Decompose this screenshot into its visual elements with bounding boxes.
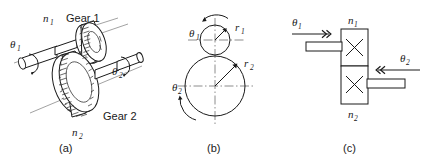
panel-c-n1-subscript: 1 <box>354 20 358 29</box>
panel-a-n2-label: n <box>72 126 78 138</box>
panel-b-r2-label: r <box>244 57 249 69</box>
panel-c-output-shaft <box>367 79 405 88</box>
panel-c-caption: (c) <box>343 142 356 154</box>
panel-c-n2-subscript: 2 <box>354 114 358 123</box>
panel-a-theta1-label: θ <box>10 38 16 50</box>
figure-root: θ 1 θ 2 n 1 n 2 Gear 1 Gear 2 (a) <box>0 0 428 163</box>
panel-b-caption: (b) <box>207 142 220 154</box>
panel-a-n1-subscript: 1 <box>50 18 54 27</box>
panel-a-n2-subscript: 2 <box>79 132 83 141</box>
panel-a-theta2-subscript: 2 <box>119 71 123 80</box>
panel-b-r1-radius-arrow <box>215 28 227 40</box>
panel-b-r1-label: r <box>235 21 240 33</box>
panel-b-r2-radius-arrow <box>215 64 237 86</box>
panel-c-theta1-subscript: 1 <box>298 22 302 31</box>
panel-a-gear-1-label: Gear 1 <box>66 12 100 24</box>
panel-c-input-shaft <box>306 42 342 51</box>
panel-b-theta1-subscript: 1 <box>196 33 200 42</box>
panel-c-theta1-arrow <box>292 30 331 37</box>
panel-b: θ 1 θ 2 r 1 r 2 (b) <box>172 15 254 154</box>
panel-b-r1-subscript: 1 <box>241 27 245 36</box>
panel-b-theta1-label: θ <box>189 27 195 39</box>
panel-a-theta2-label: θ <box>112 65 118 77</box>
panel-a-shaft-1-hub <box>22 46 57 69</box>
panel-a: θ 1 θ 2 n 1 n 2 Gear 1 Gear 2 (a) <box>10 12 144 154</box>
panel-c-theta2-subscript: 2 <box>406 58 410 67</box>
panel-b-r2-subscript: 2 <box>250 63 254 72</box>
panel-b-theta2-subscript: 2 <box>178 87 182 96</box>
panel-b-theta2-rotation-arrow <box>178 96 196 121</box>
panel-a-n1-label: n <box>43 12 49 24</box>
panel-a-caption: (a) <box>59 142 72 154</box>
panel-c: θ 1 θ 2 n 1 n 2 (c) <box>292 14 420 154</box>
panel-a-theta1-subscript: 1 <box>17 44 21 53</box>
panel-c-theta2-arrow <box>376 66 420 73</box>
figure-canvas: θ 1 θ 2 n 1 n 2 Gear 1 Gear 2 (a) <box>0 0 428 163</box>
panel-a-gear-2-label: Gear 2 <box>103 110 137 122</box>
